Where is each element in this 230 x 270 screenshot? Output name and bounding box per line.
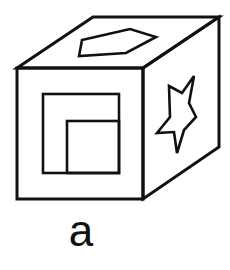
front-outer-square (43, 94, 119, 173)
figure-caption: a (0, 206, 162, 256)
cube-top-face (17, 17, 219, 68)
right-star-shape (157, 76, 196, 153)
front-inner-square (67, 121, 119, 173)
cube-right-face (143, 17, 219, 199)
top-pentagon-shape (79, 29, 156, 56)
cube-front-face (17, 68, 143, 199)
